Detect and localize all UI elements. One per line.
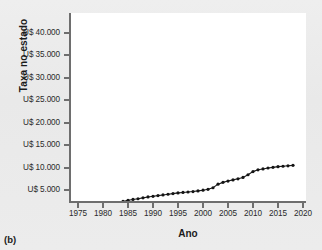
- y-tick-5000: [64, 189, 69, 191]
- y-tick-15000: [64, 144, 69, 146]
- y-tick-label-30000: U$ 30.000: [23, 74, 60, 82]
- y-tick-label-40000: U$ 40.000: [23, 29, 60, 37]
- plot-area: [70, 13, 306, 202]
- data-point-2012: [261, 167, 264, 170]
- x-tick-1995: [177, 203, 179, 208]
- x-tick-1980: [102, 203, 104, 208]
- y-tick-10000: [64, 167, 69, 169]
- x-tick-2015: [277, 203, 279, 208]
- data-point-2015: [276, 165, 279, 168]
- data-point-2013: [266, 166, 269, 169]
- data-point-2009: [246, 173, 249, 176]
- data-point-2017: [286, 164, 289, 167]
- data-point-1994: [171, 192, 174, 195]
- x-tick-label-2020: 2020: [294, 210, 312, 218]
- data-point-2002: [211, 186, 214, 189]
- data-point-1987: [136, 197, 139, 200]
- x-tick-2005: [227, 203, 229, 208]
- x-tick-label-1995: 1995: [169, 210, 187, 218]
- y-tick-label-25000: U$ 25.000: [23, 96, 60, 104]
- panel-label: (b): [4, 234, 16, 245]
- data-point-2011: [256, 168, 259, 171]
- x-tick-label-2000: 2000: [194, 210, 212, 218]
- data-point-1988: [141, 196, 144, 199]
- data-point-2016: [281, 165, 284, 168]
- data-point-1998: [191, 190, 194, 193]
- y-tick-20000: [64, 122, 69, 124]
- x-tick-1975: [77, 203, 79, 208]
- data-point-2010: [251, 170, 254, 173]
- data-point-1992: [161, 193, 164, 196]
- y-tick-label-10000: U$ 10.000: [23, 163, 60, 171]
- y-tick-35000: [64, 54, 69, 56]
- x-tick-1985: [127, 203, 129, 208]
- data-point-2003: [216, 183, 219, 186]
- x-tick-label-2005: 2005: [219, 210, 237, 218]
- data-point-1995: [176, 191, 179, 194]
- data-point-2005: [226, 179, 229, 182]
- data-point-2001: [206, 188, 209, 191]
- y-tick-label-15000: U$ 15.000: [23, 141, 60, 149]
- y-tick-40000: [64, 32, 69, 34]
- data-point-1993: [166, 193, 169, 196]
- y-tick-label-35000: U$ 35.000: [23, 51, 60, 59]
- data-point-2018: [291, 164, 294, 167]
- x-axis-line: [69, 201, 306, 203]
- data-point-1997: [186, 190, 189, 193]
- data-point-2014: [271, 166, 274, 169]
- data-point-1996: [181, 191, 184, 194]
- x-tick-label-2015: 2015: [269, 210, 287, 218]
- data-point-2004: [221, 181, 224, 184]
- data-point-2006: [231, 178, 234, 181]
- y-tick-label-20000: U$ 20.000: [23, 119, 60, 127]
- data-point-2008: [241, 176, 244, 179]
- x-tick-label-1990: 1990: [144, 210, 162, 218]
- line-series: [70, 13, 306, 202]
- y-tick-30000: [64, 77, 69, 79]
- data-point-1991: [156, 194, 159, 197]
- x-axis-title: Ano: [70, 228, 306, 239]
- series-line-taxa: [103, 165, 293, 202]
- data-point-2000: [201, 189, 204, 192]
- x-tick-2020: [302, 203, 304, 208]
- y-axis-title: Taxa no estado: [18, 0, 29, 121]
- x-tick-2010: [252, 203, 254, 208]
- x-tick-label-1975: 1975: [69, 210, 87, 218]
- x-tick-label-1985: 1985: [119, 210, 137, 218]
- data-point-2007: [236, 177, 239, 180]
- y-tick-25000: [64, 99, 69, 101]
- data-point-1990: [151, 195, 154, 198]
- data-point-1989: [146, 195, 149, 198]
- y-tick-label-5000: U$ 5.000: [28, 186, 60, 194]
- x-tick-1990: [152, 203, 154, 208]
- chart-figure: U$ 5.000U$ 10.000U$ 15.000U$ 20.000U$ 25…: [0, 0, 322, 250]
- x-tick-2000: [202, 203, 204, 208]
- x-tick-label-1980: 1980: [94, 210, 112, 218]
- data-point-1999: [196, 189, 199, 192]
- y-axis-line: [69, 13, 71, 203]
- x-tick-label-2010: 2010: [244, 210, 262, 218]
